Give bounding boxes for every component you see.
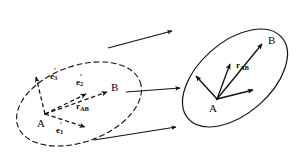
right-vector-r-ab — [217, 44, 262, 99]
label-e3-prime: e′3 — [50, 70, 58, 81]
left-vector-e1-prime — [45, 114, 85, 127]
label-left-r-ab: rAB — [76, 102, 89, 112]
right-vector-e3 — [196, 76, 217, 99]
mapping-arrow-middle — [126, 88, 180, 92]
label-e3-prime-sub: 3 — [54, 75, 57, 82]
left-vector-e3-prime — [36, 77, 45, 114]
label-e2-prime: e′2 — [76, 76, 84, 87]
label-e2-prime-sub: 2 — [80, 81, 83, 88]
right-vector-e2 — [217, 64, 230, 99]
mapping-arrow-bottom — [94, 127, 176, 140]
label-left-point-a: A — [37, 118, 45, 129]
label-right-r-ab-sub: AB — [240, 64, 249, 71]
label-right-point-b: B — [268, 35, 275, 46]
label-e1-prime: e′1 — [56, 124, 64, 135]
label-right-point-a: A — [209, 103, 217, 114]
label-right-r-ab: rAB — [236, 61, 249, 71]
vector-diagram-figure: e′3 e′2 e′1 rAB A B rAB A B — [0, 0, 308, 163]
label-e1-prime-sub: 1 — [60, 129, 63, 136]
label-left-point-b: B — [111, 82, 118, 93]
label-left-r-ab-sub: AB — [80, 105, 89, 112]
diagram-canvas — [0, 0, 308, 163]
mapping-arrow-top — [108, 31, 172, 48]
